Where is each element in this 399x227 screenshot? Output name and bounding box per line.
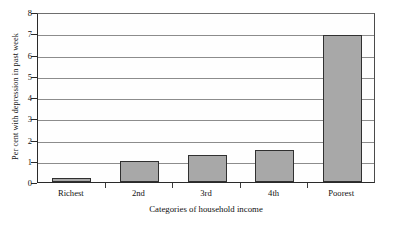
y-axis-tick-mark — [31, 34, 37, 35]
plot-area — [37, 13, 375, 183]
y-axis-tick-mark — [31, 77, 37, 78]
bar — [255, 150, 294, 182]
x-axis-category-label: Poorest — [301, 188, 381, 198]
x-axis-tick-mark — [105, 183, 106, 188]
y-axis-tick-mark — [31, 141, 37, 142]
y-axis-tick-label: 1 — [6, 157, 32, 166]
y-axis-tick-mark — [31, 13, 37, 14]
y-axis-tick-mark — [31, 119, 37, 120]
bar — [323, 35, 362, 182]
x-axis-tick-mark — [240, 183, 241, 188]
x-axis-tick-mark — [307, 183, 308, 188]
bar — [52, 178, 91, 182]
y-axis-tick-mark — [31, 162, 37, 163]
y-axis-tick-label: 3 — [6, 115, 32, 124]
y-axis-tick-label: 2 — [6, 136, 32, 145]
x-axis-title: Categories of household income — [37, 204, 375, 214]
y-axis-tick-label: 4 — [6, 94, 32, 103]
y-axis-ticks: 012345678 — [0, 0, 32, 227]
bar-chart-figure: Per cent with depression in past week 01… — [0, 0, 399, 227]
y-axis-tick-label: 0 — [6, 179, 32, 188]
bar — [188, 155, 227, 182]
x-axis-tick-mark — [172, 183, 173, 188]
y-axis-tick-label: 7 — [6, 30, 32, 39]
y-axis-tick-label: 5 — [6, 72, 32, 81]
y-axis-tick-mark — [31, 98, 37, 99]
y-axis-tick-label: 8 — [6, 9, 32, 18]
y-axis-tick-label: 6 — [6, 51, 32, 60]
y-axis-tick-mark — [31, 183, 37, 184]
bar — [120, 161, 159, 182]
y-axis-tick-mark — [31, 56, 37, 57]
